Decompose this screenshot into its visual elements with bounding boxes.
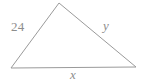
triangle-figure: 24 y x: [0, 0, 146, 84]
triangle-outline: [11, 3, 136, 68]
bottom-side-variable-label: x: [70, 68, 76, 81]
right-side-variable-label: y: [103, 19, 109, 32]
left-side-length-label: 24: [11, 20, 24, 33]
